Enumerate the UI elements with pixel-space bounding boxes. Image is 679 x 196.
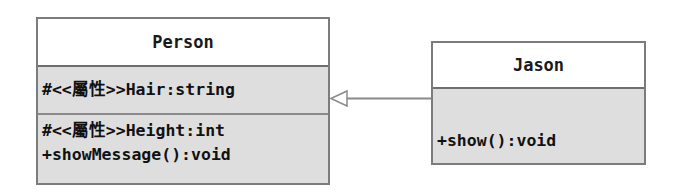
inheritance-arrow-icon [331,91,347,106]
generalization-connector [0,0,679,196]
